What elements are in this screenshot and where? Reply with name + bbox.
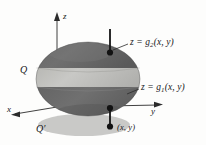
upper-surface-prefix: z = g [130, 37, 150, 47]
upper-label-leader [113, 44, 128, 50]
lower-surface-label: z = g1(x, y) [141, 83, 185, 93]
lower-surface-args: (x, y) [165, 82, 185, 92]
projection-point-marker [107, 123, 113, 129]
solid-region-label: Q [20, 65, 27, 75]
z-axis-label: z [63, 12, 67, 21]
x-axis-arrowhead [11, 111, 20, 117]
z-axis-arrowhead [54, 12, 60, 21]
lower-surface-prefix: z = g [141, 82, 161, 92]
projection-region-label: Q′ [36, 124, 46, 134]
upper-surface-args: (x, y) [154, 37, 174, 47]
upper-surface-point [107, 49, 113, 55]
x-axis-line [15, 107, 57, 114]
y-axis-label: y [151, 107, 155, 116]
figure-container: z y x Q Q′ (x, y) z = g2(x, y) z = g1(x,… [0, 0, 206, 145]
upper-surface-label: z = g2(x, y) [130, 38, 174, 48]
upper-surface-probe [107, 29, 113, 56]
x-axis-label: x [7, 105, 11, 114]
y-axis-arrowhead [154, 102, 163, 108]
projection-point-label: (x, y) [117, 123, 135, 132]
diagram-canvas [0, 0, 206, 145]
